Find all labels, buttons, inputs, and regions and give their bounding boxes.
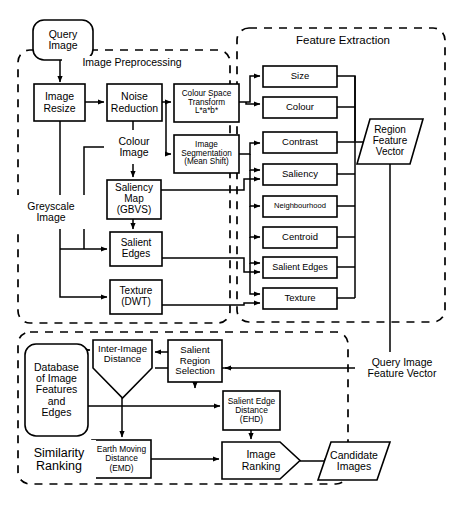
node-feature-centroid[interactable]	[263, 227, 337, 248]
node-salient-region-selection[interactable]	[168, 340, 222, 382]
connector-e-seg-to-size-bus	[239, 143, 260, 154]
node-feature-size[interactable]	[263, 66, 337, 87]
node-salient-edges-pre[interactable]	[110, 232, 162, 266]
node-image-resize[interactable]	[34, 84, 85, 121]
node-salient-edge-distance[interactable]	[223, 391, 280, 430]
node-saliency-map[interactable]	[107, 180, 161, 219]
connector-e-bus-to-saliency-feat	[250, 154, 260, 170]
connector-e-bus-to-centroid	[250, 206, 260, 237]
connector-e-noise-down	[166, 102, 171, 154]
node-feature-neighbourhood[interactable]	[263, 196, 337, 217]
node-feature-saliency[interactable]	[263, 164, 337, 185]
connector-e-bus-to-texture-feat	[250, 263, 260, 294]
flowchart-svg	[0, 0, 462, 506]
node-image-segmentation[interactable]	[174, 135, 239, 173]
node-inter-image-distance[interactable]	[93, 340, 152, 398]
connector-e-texture-to-feat	[162, 303, 260, 305]
connector-e-rfv-down	[374, 164, 390, 360]
node-feature-texture[interactable]	[263, 288, 337, 309]
connector-e-bus-to-neighbourhood	[250, 170, 260, 206]
node-image-ranking[interactable]	[222, 442, 300, 479]
node-database-image-features[interactable]	[25, 344, 88, 436]
node-feature-colour[interactable]	[263, 97, 337, 118]
node-feature-contrast[interactable]	[263, 132, 337, 153]
node-feature-salient-edges[interactable]	[263, 257, 337, 278]
node-region-feature-vector[interactable]	[357, 119, 423, 164]
connector-e-colourimg-left	[84, 147, 104, 249]
connector-e-cst-to-size	[239, 76, 260, 102]
node-candidate-images[interactable]	[318, 442, 390, 480]
node-query-image[interactable]	[33, 20, 93, 60]
connector-e-saliency-map-to-feat	[161, 179, 260, 190]
nodes-layer	[25, 20, 423, 480]
node-earth-moving-distance[interactable]	[92, 440, 151, 478]
flowchart-canvas: Image PreprocessingFeature ExtractionSim…	[0, 0, 462, 506]
connector-e-bus-to-salient-edge-feat	[250, 237, 260, 263]
node-colour-space-transform[interactable]	[174, 84, 239, 122]
node-texture-dwt[interactable]	[110, 280, 162, 314]
connector-e-size-bus	[337, 76, 355, 141]
node-noise-reduction[interactable]	[107, 84, 162, 121]
connector-e-salient-edges-to-feat	[162, 258, 260, 272]
